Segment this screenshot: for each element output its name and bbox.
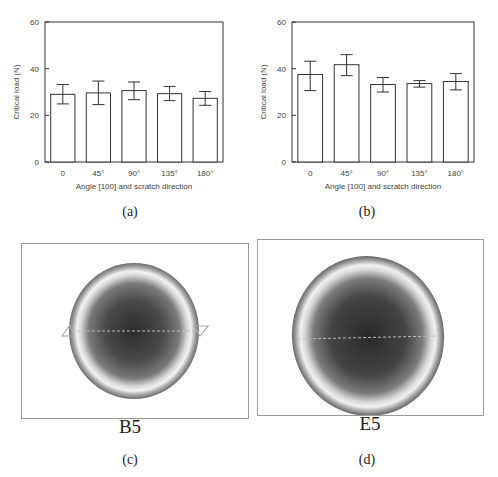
y-tick-label: 60 — [277, 18, 286, 27]
y-tick-label: 0 — [35, 158, 40, 167]
y-tick-label: 20 — [30, 111, 39, 120]
y-axis-label: Critical load (N) — [12, 64, 21, 119]
bar — [51, 94, 75, 162]
y-axis-label: Critical load (N) — [259, 64, 268, 119]
x-tick-label: 90° — [128, 169, 140, 178]
y-tick-label: 0 — [282, 158, 287, 167]
x-tick-label: 0 — [61, 169, 66, 178]
caption-c: (c) — [110, 452, 150, 468]
scratch-image-e5 — [257, 239, 484, 416]
wear-scar-e5-image — [258, 240, 483, 415]
x-axis-label: Angle [100] and scratch direction — [325, 182, 442, 191]
x-axis-label: Angle [100] and scratch direction — [76, 182, 193, 191]
caption-a: (a) — [110, 204, 150, 220]
x-tick-label: 45° — [341, 169, 353, 178]
caption-d: (d) — [347, 452, 387, 468]
caption-b: (b) — [347, 204, 387, 220]
x-tick-label: 180° — [448, 169, 465, 178]
bar-chart-b: 0204060045°90°135°180°Angle [100] and sc… — [249, 0, 498, 200]
sample-label-e5: E5 — [340, 413, 400, 435]
bar — [193, 98, 217, 162]
sample-label-b5: B5 — [100, 416, 160, 438]
scratch-image-b5 — [21, 243, 249, 419]
y-tick-label: 40 — [30, 65, 39, 74]
bar — [407, 84, 432, 162]
wear-scar-b5-image — [22, 244, 248, 418]
bar — [122, 91, 146, 162]
y-tick-label: 40 — [277, 65, 286, 74]
x-tick-label: 0 — [308, 169, 313, 178]
bar — [157, 94, 181, 162]
bar-chart-a: 0204060045°90°135°180°Angle [100] and sc… — [0, 0, 249, 200]
y-tick-label: 20 — [277, 111, 286, 120]
x-tick-label: 90° — [377, 169, 389, 178]
x-tick-label: 45° — [92, 169, 104, 178]
x-tick-label: 135° — [161, 169, 178, 178]
x-tick-label: 135° — [411, 169, 428, 178]
y-tick-label: 60 — [30, 18, 39, 27]
bar — [443, 82, 468, 163]
bar — [334, 65, 359, 162]
bar — [371, 85, 396, 162]
x-tick-label: 180° — [197, 169, 214, 178]
